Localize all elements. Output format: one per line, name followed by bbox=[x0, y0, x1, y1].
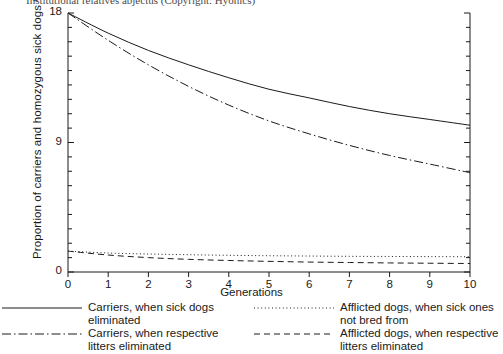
x-axis-title: Generations bbox=[0, 286, 503, 298]
plot-svg bbox=[0, 0, 503, 292]
y-axis-title: Proportion of carriers and homozygous si… bbox=[31, 9, 43, 259]
series-line bbox=[68, 13, 470, 173]
legend-entry[interactable]: Carriers, when sick dogs eliminated bbox=[0, 301, 251, 327]
legend-label: Carriers, when respective litters elimin… bbox=[84, 327, 218, 353]
plot-area: 0918 012345678910 Proportion of carriers… bbox=[0, 0, 503, 292]
legend-label: Afflicted dogs, when respective litters … bbox=[336, 327, 498, 353]
legend-line-sample-dotted-icon bbox=[252, 301, 336, 315]
legend-line-sample-dashed-icon bbox=[252, 327, 336, 341]
y-tick-label: 0 bbox=[14, 264, 62, 276]
legend-entry[interactable]: Carriers, when respective litters elimin… bbox=[0, 327, 251, 353]
data-series bbox=[68, 13, 470, 264]
chart-figure: Institutional relatives abjectus (Copyri… bbox=[0, 0, 503, 354]
legend-line-sample-dash-dot-icon bbox=[0, 327, 84, 341]
legend-label: Carriers, when sick dogs eliminated bbox=[84, 301, 214, 327]
legend-entry[interactable]: Afflicted dogs, when respective litters … bbox=[252, 327, 503, 353]
series-line bbox=[68, 251, 470, 263]
chart-legend: Carriers, when sick dogs eliminatedCarri… bbox=[0, 299, 503, 354]
legend-column-left: Carriers, when sick dogs eliminatedCarri… bbox=[0, 299, 251, 354]
series-line bbox=[68, 13, 470, 125]
series-line bbox=[68, 251, 470, 257]
legend-label: Afflicted dogs, when sick ones not bred … bbox=[336, 301, 494, 327]
legend-entry[interactable]: Afflicted dogs, when sick ones not bred … bbox=[252, 301, 503, 327]
legend-line-sample-solid-icon bbox=[0, 301, 84, 315]
legend-column-right: Afflicted dogs, when sick ones not bred … bbox=[252, 299, 503, 354]
